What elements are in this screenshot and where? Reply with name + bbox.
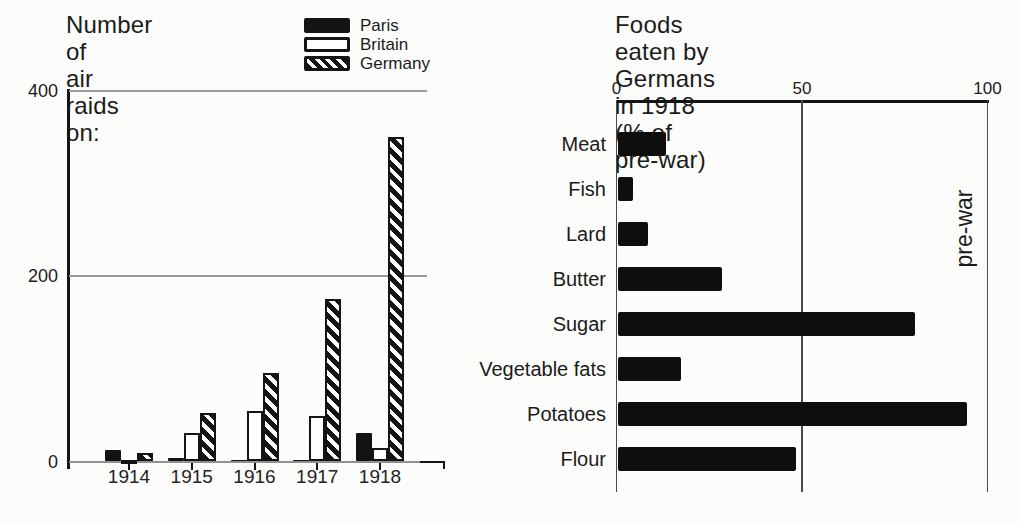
- bar-britain-1918: [372, 448, 388, 462]
- y-axis-line: [67, 89, 70, 469]
- label-vegetable-fats: Vegetable fats: [438, 357, 606, 381]
- textbook-charts-image: Number of air raids on: Paris Britain Ge…: [0, 0, 1018, 526]
- xtick-label-0: 0: [587, 79, 647, 99]
- bar-britain-1917: [309, 416, 325, 461]
- bar-vegetable-fats: [618, 357, 681, 381]
- bar-meat: [618, 132, 666, 156]
- britain-legend-label: Britain: [360, 37, 408, 52]
- bar-flour: [618, 447, 796, 471]
- label-flour: Flour: [438, 447, 606, 471]
- bar-sugar: [618, 312, 915, 336]
- bar-butter: [618, 267, 722, 291]
- vline-50: [801, 100, 803, 492]
- bar-germany-1917: [325, 299, 341, 461]
- ytick-label-200: 200: [14, 267, 58, 285]
- bar-paris-1915: [168, 458, 184, 462]
- ytick-label-400: 400: [14, 82, 58, 100]
- year-label-1915: 1915: [160, 466, 224, 488]
- xtick-label-50: 50: [772, 79, 832, 99]
- vline-100: [987, 100, 989, 492]
- ytick-label-0: 0: [14, 453, 58, 471]
- bar-paris-1914: [105, 450, 121, 461]
- legend-row-germany: Germany: [304, 56, 430, 71]
- vline-0: [616, 100, 618, 492]
- label-meat: Meat: [438, 132, 606, 156]
- air-raids-title-line1: Number of: [66, 11, 153, 65]
- pre-war-label: pre-war: [952, 189, 979, 267]
- bar-lard: [618, 222, 648, 246]
- legend-row-britain: Britain: [304, 37, 430, 52]
- label-lard: Lard: [438, 222, 606, 246]
- pre-war-annotation: pre-war: [936, 183, 994, 273]
- legend-row-paris: Paris: [304, 18, 430, 33]
- bar-fish: [618, 177, 633, 201]
- label-sugar: Sugar: [438, 312, 606, 336]
- air-raids-legend: Paris Britain Germany: [304, 18, 430, 75]
- paris-swatch: [304, 18, 350, 33]
- bar-germany-1914: [137, 453, 153, 461]
- xtick-label-100: 100: [958, 79, 1018, 99]
- bar-paris-1918: [356, 433, 372, 462]
- bar-britain-1916: [247, 411, 263, 462]
- foods-title-line1: Foods eaten by Germans in 1918: [615, 11, 715, 119]
- air-raids-title: Number of air raids on:: [66, 11, 153, 146]
- paris-legend-label: Paris: [360, 18, 399, 33]
- gridline-400: [69, 90, 427, 92]
- bar-germany-1916: [263, 373, 279, 462]
- gridline-200: [69, 275, 427, 277]
- year-label-1918: 1918: [348, 466, 412, 488]
- label-fish: Fish: [438, 177, 606, 201]
- bar-germany-1915: [200, 413, 216, 461]
- bar-potatoes: [618, 402, 967, 426]
- germany-swatch: [304, 56, 350, 71]
- year-label-1914: 1914: [97, 466, 161, 488]
- year-label-1916: 1916: [223, 466, 287, 488]
- bar-germany-1918: [388, 137, 404, 461]
- air-raids-title-line2: air raids on:: [66, 65, 153, 146]
- year-label-1917: 1917: [285, 466, 349, 488]
- germany-legend-label: Germany: [360, 56, 430, 71]
- label-butter: Butter: [438, 267, 606, 291]
- bar-britain-1915: [184, 433, 200, 462]
- label-potatoes: Potatoes: [438, 402, 606, 426]
- britain-swatch: [304, 37, 350, 52]
